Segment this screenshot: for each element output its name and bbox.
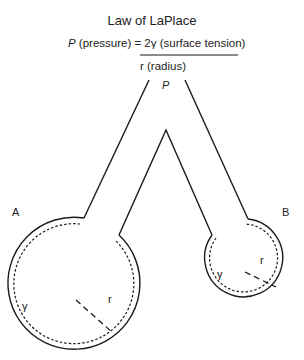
bubble-b-gamma-label: γ xyxy=(217,268,223,280)
bubble-b-wall xyxy=(205,219,283,297)
tube-outer-left xyxy=(84,80,149,218)
bubble-a-label: A xyxy=(12,206,19,218)
laplace-diagram xyxy=(0,0,304,360)
tube-outer-right xyxy=(185,80,248,219)
tube-inner xyxy=(119,130,212,235)
pressure-label: P xyxy=(162,79,169,91)
bubble-b-surface-layer xyxy=(210,224,278,292)
bubble-b-radius-label: r xyxy=(260,254,264,266)
bubble-b-label: B xyxy=(282,206,289,218)
bubble-a-gamma-label: γ xyxy=(22,300,28,312)
bubble-a-radius-label: r xyxy=(108,293,112,305)
bubble-a-wall xyxy=(8,217,140,349)
bubble-a-surface-layer xyxy=(14,224,134,344)
